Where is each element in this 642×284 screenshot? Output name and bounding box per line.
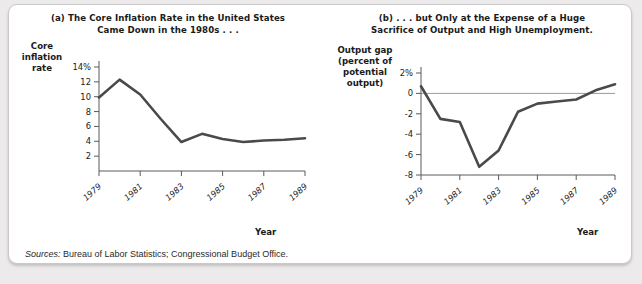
chart-a-y-axis-title: Core inflation rate	[13, 41, 71, 74]
chart-b-y-axis-title: Output gap (percent of potential output)	[329, 45, 401, 89]
y-tick-label: 12	[80, 77, 91, 87]
chart-a-svg: 14%12108642197919811983198519871989	[71, 55, 309, 207]
x-tick-label: 1987	[246, 181, 269, 203]
y-tick-label: 2	[86, 151, 91, 161]
x-tick-label: 1987	[558, 185, 581, 207]
sources-label: Sources:	[25, 249, 61, 259]
chart-b-title-line2: Sacrifice of Output and High Unemploymen…	[371, 25, 593, 35]
y-tick-label: 2%	[400, 68, 413, 78]
chart-a-plot-area: 14%12108642197919811983198519871989	[71, 55, 309, 207]
chart-a-x-axis-title: Year	[255, 227, 276, 237]
chart-panel-b: (b) . . . but Only at the Expense of a H…	[327, 5, 631, 243]
y-tick-label: 10	[80, 92, 91, 102]
y-tick-label: 6	[86, 121, 91, 131]
chart-a-title-line1: (a) The Core Inflation Rate in the Unite…	[51, 13, 285, 23]
chart-panel-a: (a) The Core Inflation Rate in the Unite…	[9, 5, 327, 243]
x-tick-label: 1985	[519, 185, 542, 207]
y-tick-label: -8	[405, 170, 413, 180]
sources-note: Sources: Bureau of Labor Statistics; Con…	[25, 249, 288, 259]
chart-b-svg: 2%0-2-4-6-8197919811983198519871989	[395, 63, 619, 207]
x-tick-label: 1989	[597, 185, 619, 207]
x-tick-label: 1983	[480, 185, 503, 207]
x-tick-label: 1981	[442, 185, 465, 207]
x-tick-label: 1979	[403, 185, 426, 207]
y-tick-label: -4	[405, 129, 413, 139]
y-tick-label: 4	[86, 136, 91, 146]
chart-a-title-line2: Came Down in the 1980s . . .	[97, 25, 239, 35]
x-tick-label: 1981	[122, 181, 145, 203]
chart-b-plot-area: 2%0-2-4-6-8197919811983198519871989	[395, 63, 619, 207]
y-tick-label: -2	[405, 109, 413, 119]
y-tick-label: 8	[86, 107, 91, 117]
y-tick-label: -6	[405, 150, 413, 160]
y-tick-label: 0	[408, 88, 413, 98]
data-series-line	[421, 84, 615, 167]
data-series-line	[99, 80, 305, 142]
chart-b-x-axis-title: Year	[577, 227, 598, 237]
sources-text: Bureau of Labor Statistics; Congressiona…	[61, 249, 288, 259]
chart-b-title-line1: (b) . . . but Only at the Expense of a H…	[379, 13, 586, 23]
figure-panel: (a) The Core Inflation Rate in the Unite…	[8, 4, 632, 264]
chart-a-title: (a) The Core Inflation Rate in the Unite…	[23, 13, 313, 36]
x-tick-label: 1989	[287, 181, 309, 203]
y-tick-label: 14%	[72, 62, 91, 72]
x-tick-label: 1983	[163, 181, 186, 203]
x-tick-label: 1979	[81, 181, 104, 203]
x-tick-label: 1985	[204, 181, 227, 203]
chart-b-title: (b) . . . but Only at the Expense of a H…	[337, 13, 627, 36]
